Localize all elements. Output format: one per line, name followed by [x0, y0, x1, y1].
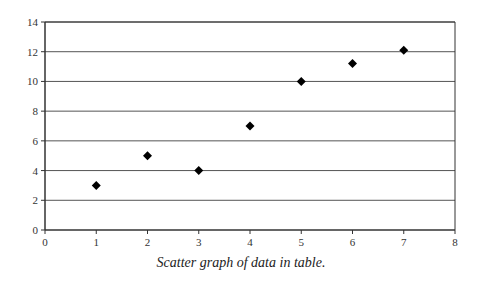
x-tick-label: 1	[94, 236, 100, 248]
diamond-marker-icon	[348, 59, 357, 68]
y-axis-ticks: 02468101214	[27, 16, 45, 236]
diamond-marker-icon	[92, 181, 101, 190]
x-tick-label: 0	[42, 236, 48, 248]
y-tick-label: 2	[33, 194, 39, 206]
y-tick-label: 8	[33, 105, 39, 117]
diamond-marker-icon	[194, 166, 203, 175]
scatter-chart: 02468101214 012345678	[0, 0, 482, 250]
diamond-marker-icon	[399, 46, 408, 55]
y-tick-label: 0	[33, 224, 39, 236]
x-tick-label: 2	[145, 236, 151, 248]
diamond-marker-icon	[246, 122, 255, 131]
diamond-marker-icon	[143, 151, 152, 160]
y-tick-label: 10	[27, 75, 39, 87]
x-tick-label: 4	[247, 236, 253, 248]
x-tick-label: 5	[299, 236, 305, 248]
gridlines	[45, 22, 455, 200]
diamond-marker-icon	[297, 77, 306, 86]
x-tick-label: 3	[196, 236, 202, 248]
y-tick-label: 14	[27, 16, 39, 28]
x-axis-ticks: 012345678	[42, 230, 458, 248]
y-tick-label: 4	[33, 165, 39, 177]
x-tick-label: 8	[452, 236, 458, 248]
figure-caption: Scatter graph of data in table.	[0, 255, 482, 271]
y-tick-label: 12	[27, 46, 38, 58]
x-tick-label: 7	[401, 236, 407, 248]
x-tick-label: 6	[350, 236, 356, 248]
data-points	[92, 46, 409, 190]
y-tick-label: 6	[33, 135, 39, 147]
